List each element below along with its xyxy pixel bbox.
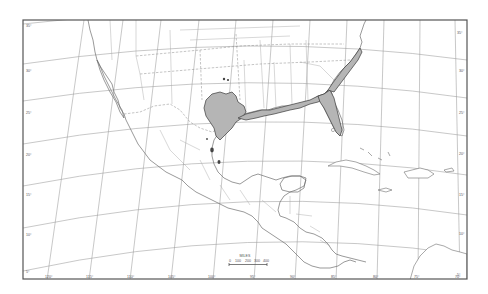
lat-label: 35°	[26, 24, 32, 28]
lat-label: 15°	[459, 193, 465, 197]
record-dot	[210, 148, 214, 153]
landmass-north-america	[88, 20, 366, 268]
puerto-rico	[444, 168, 454, 172]
range-map: 35° 30° 25° 20° 15° 10° 5° 35° 30° 25° 2…	[0, 0, 488, 294]
lon-label: 100°	[208, 275, 216, 279]
lat-label: 5°	[26, 270, 30, 274]
lat-label: 15°	[26, 193, 32, 197]
range-texas	[204, 92, 246, 140]
lon-label: 70°	[455, 275, 461, 279]
hispaniola	[404, 168, 434, 178]
scale-unit-label: MILES	[240, 254, 251, 258]
record-dot	[227, 79, 229, 81]
graticule-longitude	[47, 20, 460, 280]
graticule-latitude	[23, 10, 467, 271]
lon-label: 75°	[414, 275, 420, 279]
lon-label: 105°	[168, 275, 176, 279]
species-range	[204, 48, 362, 140]
lon-label: 90°	[290, 275, 296, 279]
political-borders	[110, 20, 350, 246]
lat-label: 10°	[459, 232, 465, 236]
lat-label: 30°	[459, 69, 465, 73]
lon-label: 80°	[373, 275, 379, 279]
jamaica	[378, 188, 392, 192]
scale-tick-label: 0	[229, 259, 231, 263]
lon-label: 115°	[86, 275, 94, 279]
record-dot	[223, 78, 225, 80]
lat-label: 25°	[26, 111, 32, 115]
lat-label: 25°	[459, 111, 465, 115]
scale-tick-label: 100	[235, 259, 241, 263]
lon-label: 110°	[127, 275, 135, 279]
range-florida	[318, 90, 342, 136]
cuba	[328, 160, 380, 175]
lon-label: 120°	[45, 275, 53, 279]
range-lake-okeechobee	[331, 128, 334, 131]
lat-label: 35°	[457, 31, 463, 35]
lat-label: 30°	[26, 69, 32, 73]
range-gulf-coast	[238, 90, 328, 120]
lat-label: 20°	[459, 152, 465, 156]
lat-label: 20°	[26, 153, 32, 157]
scale-tick-label: 400	[263, 259, 269, 263]
lat-label: 10°	[26, 233, 32, 237]
scale-bar: MILES 0 100 200 300 400	[229, 254, 269, 266]
lon-label: 85°	[331, 275, 337, 279]
scale-tick-label: 300	[254, 259, 260, 263]
lon-label: 95°	[250, 275, 256, 279]
bahamas	[360, 148, 390, 160]
record-dot	[218, 160, 221, 164]
map-frame	[23, 20, 467, 279]
record-dot	[206, 138, 208, 140]
latitude-labels-left: 35° 30° 25° 20° 15° 10° 5°	[26, 24, 32, 274]
scale-tick-label: 200	[245, 259, 251, 263]
latitude-labels-right: 35° 30° 25° 20° 15° 10° 5°	[457, 31, 465, 277]
